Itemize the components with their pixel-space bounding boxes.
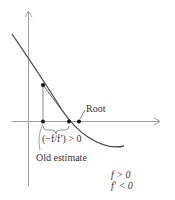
old-estimate-label: Old estimate — [36, 153, 87, 163]
new-estimate-point — [67, 120, 71, 124]
root-label: Root — [86, 104, 105, 114]
x-axis — [12, 118, 160, 125]
step-label: (−f/f′) > 0 — [42, 134, 82, 144]
root-point — [77, 120, 81, 124]
condition-f-positive: f > 0 — [111, 170, 131, 180]
curve-point — [41, 83, 45, 87]
condition-fprime-negative: f′ < 0 — [111, 181, 133, 191]
y-axis — [25, 11, 32, 186]
root-leader — [80, 110, 85, 119]
old-estimate-point — [41, 120, 45, 124]
newton-diagram — [0, 0, 175, 200]
tangent-line — [43, 85, 70, 122]
